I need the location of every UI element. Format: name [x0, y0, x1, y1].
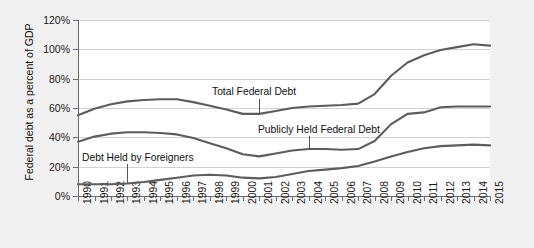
x-tick-2007	[358, 197, 359, 201]
y-tick-label-0: 0%	[10, 191, 70, 201]
x-tick-1997	[193, 197, 194, 201]
annotation-leader-debt-held-by-foreigners	[127, 164, 128, 184]
x-tick-1995	[160, 197, 161, 201]
y-tick-120	[73, 20, 78, 21]
x-tick-label-2000: 2000	[247, 181, 258, 204]
x-tick-label-2011: 2011	[428, 182, 439, 204]
gridline-80	[79, 79, 490, 80]
x-tick-2013	[457, 197, 458, 201]
annotation-leader-total-federal-debt	[259, 99, 260, 113]
x-tick-label-1991: 1991	[99, 181, 110, 204]
x-tick-label-1994: 1994	[148, 181, 159, 204]
y-axis-title: Federal debt as a percent of GDP	[23, 7, 35, 197]
x-tick-1998	[210, 197, 211, 201]
x-tick-1992	[111, 197, 112, 201]
x-tick-1990	[78, 197, 79, 201]
x-tick-label-2004: 2004	[313, 181, 324, 204]
y-tick-label-120: 120%	[10, 15, 70, 25]
x-tick-label-2014: 2014	[478, 181, 489, 204]
x-tick-label-1999: 1999	[230, 181, 241, 204]
x-tick-2001	[259, 197, 260, 201]
x-tick-1991	[95, 197, 96, 201]
x-tick-1993	[127, 197, 128, 201]
gridline-20	[79, 167, 490, 168]
x-tick-label-2012: 2012	[445, 181, 456, 204]
x-tick-2005	[325, 197, 326, 201]
x-tick-label-2005: 2005	[329, 181, 340, 204]
y-tick-100	[73, 49, 78, 50]
x-tick-2009	[391, 197, 392, 201]
y-axis-line	[78, 20, 79, 197]
x-tick-2010	[408, 197, 409, 201]
x-tick-label-1993: 1993	[131, 181, 142, 204]
x-tick-2006	[342, 197, 343, 201]
annotation-total-federal-debt: Total Federal Debt	[212, 86, 296, 97]
x-tick-label-2013: 2013	[461, 181, 472, 204]
annotation-leader-publicly-held-federal-debt	[309, 136, 310, 150]
x-tick-label-2002: 2002	[280, 181, 291, 204]
x-tick-label-2010: 2010	[412, 181, 423, 204]
x-tick-label-2001: 2001	[263, 181, 274, 204]
x-tick-2002	[276, 197, 277, 201]
x-tick-label-2003: 2003	[296, 181, 307, 204]
x-tick-2003	[292, 197, 293, 201]
annotation-publicly-held-federal-debt: Publicly Held Federal Debt	[258, 124, 380, 135]
chart-root: 120% 100% 80% 60% 40% 20% 0% Federal deb…	[0, 0, 534, 248]
gridline-60	[79, 108, 490, 109]
x-tick-2015	[490, 197, 491, 201]
y-tick-label-20: 20%	[10, 162, 70, 172]
x-tick-2012	[441, 197, 442, 201]
x-tick-label-2006: 2006	[346, 181, 357, 204]
y-tick-label-60: 60%	[10, 103, 70, 113]
x-tick-2000	[243, 197, 244, 201]
y-tick-label-40: 40%	[10, 132, 70, 142]
gridline-40	[79, 137, 490, 138]
x-tick-2014	[474, 197, 475, 201]
x-tick-1994	[144, 197, 145, 201]
x-tick-label-1996: 1996	[181, 181, 192, 204]
annotation-debt-held-by-foreigners: Debt Held by Foreigners	[82, 152, 194, 163]
x-tick-1999	[226, 197, 227, 201]
y-tick-60	[73, 108, 78, 109]
x-tick-label-2009: 2009	[395, 181, 406, 204]
x-tick-label-1992: 1992	[115, 181, 126, 204]
x-tick-label-2015: 2015	[494, 181, 505, 204]
x-tick-label-1990: 1990	[82, 181, 93, 204]
y-tick-80	[73, 79, 78, 80]
x-tick-label-2008: 2008	[379, 181, 390, 204]
x-tick-2011	[424, 197, 425, 201]
gridline-120	[79, 20, 490, 21]
y-tick-20	[73, 167, 78, 168]
x-tick-label-1997: 1997	[197, 181, 208, 204]
x-tick-label-2007: 2007	[362, 181, 373, 204]
x-tick-1996	[177, 197, 178, 201]
y-tick-label-100: 100%	[10, 44, 70, 54]
x-tick-label-1995: 1995	[164, 181, 175, 204]
x-tick-2004	[309, 197, 310, 201]
x-tick-2008	[375, 197, 376, 201]
gridline-100	[79, 49, 490, 50]
y-tick-label-80: 80%	[10, 74, 70, 84]
y-tick-40	[73, 137, 78, 138]
x-tick-label-1998: 1998	[214, 181, 225, 204]
